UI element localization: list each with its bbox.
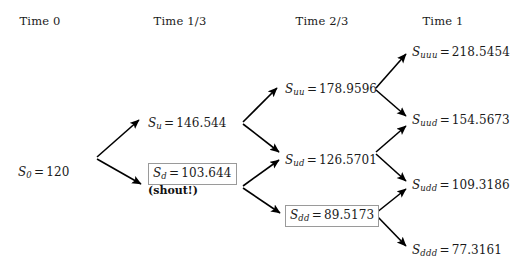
- time-header-3: Time 1: [422, 14, 463, 28]
- node-equals-Suuu: =: [438, 45, 452, 59]
- node-value-Sd: 103.644: [181, 166, 231, 180]
- node-equals-Suu: =: [305, 82, 319, 96]
- tree-edge-Sud-to-Suud: [376, 126, 406, 152]
- node-label-Su: Su=146.544: [148, 116, 227, 131]
- time-header-0: Time 0: [19, 14, 60, 28]
- tree-edge-Su-to-Suu: [243, 88, 277, 122]
- node-value-Sdd: 89.5173: [324, 208, 374, 222]
- node-value-Su: 146.544: [176, 116, 226, 130]
- node-box-Sdd: Sdd=89.5173: [285, 205, 379, 227]
- node-equals-S0: =: [32, 165, 46, 179]
- node-equals-Sud: =: [305, 153, 319, 167]
- node-equals-Sd: =: [167, 166, 181, 180]
- time-header-1: Time 1/3: [154, 14, 207, 28]
- node-value-Suu: 178.9596: [319, 82, 377, 96]
- node-value-Sud: 126.5701: [319, 153, 377, 167]
- tree-edge-S0-to-Sd: [97, 159, 141, 184]
- node-label-Sud: Sud=126.5701: [285, 153, 377, 168]
- shout-annotation-Sd: (shout!): [148, 184, 198, 197]
- node-subscript-Sudd: udd: [420, 183, 437, 193]
- node-label-Sudd: Sudd=109.3186: [412, 178, 510, 193]
- tree-edge-Su-to-Sud: [243, 124, 279, 152]
- node-subscript-Suuu: uuu: [420, 50, 437, 60]
- tree-edge-Sd-to-Sud: [243, 160, 279, 186]
- node-label-Sdd: Sdd=89.5173: [286, 206, 378, 226]
- node-box-Sd: Sd=103.644: [148, 163, 237, 185]
- tree-edge-Sud-to-Sudd: [376, 154, 406, 181]
- node-label-Suud: Suud=154.5673: [412, 113, 510, 128]
- node-equals-Sddd: =: [438, 243, 452, 257]
- time-header-2: Time 2/3: [296, 14, 349, 28]
- tree-edge-Sd-to-Sdd: [243, 188, 280, 213]
- node-label-Suuu: Suuu=218.5454: [412, 45, 510, 60]
- node-equals-Suud: =: [438, 113, 452, 127]
- node-subscript-Suu: uu: [293, 87, 305, 97]
- node-subscript-Sddd: ddd: [420, 248, 437, 258]
- tree-edge-S0-to-Su: [97, 120, 139, 157]
- node-equals-Su: =: [162, 116, 176, 130]
- binomial-tree-diagram: Time 0Time 1/3Time 2/3Time 1 S0=120Su=14…: [0, 0, 526, 278]
- node-label-Suu: Suu=178.9596: [285, 82, 377, 97]
- node-value-Suud: 154.5673: [452, 113, 510, 127]
- node-subscript-Sdd: dd: [298, 213, 309, 223]
- tree-edges: [0, 0, 526, 278]
- node-label-Sd: Sd=103.644: [149, 164, 236, 184]
- node-subscript-Sud: ud: [293, 158, 305, 168]
- node-value-Sudd: 109.3186: [452, 178, 510, 192]
- node-value-Suuu: 218.5454: [452, 45, 510, 59]
- node-subscript-Suud: uud: [420, 118, 437, 128]
- tree-edge-Suu-to-Suud: [376, 90, 406, 116]
- node-value-S0: 120: [46, 165, 69, 179]
- node-value-Sddd: 77.3161: [452, 243, 502, 257]
- node-equals-Sudd: =: [438, 178, 452, 192]
- tree-edge-Suu-to-Suuu: [376, 54, 406, 88]
- tree-edge-Sdd-to-Sudd: [376, 189, 406, 213]
- node-equals-Sdd: =: [310, 208, 324, 222]
- node-label-Sddd: Sddd=77.3161: [412, 243, 502, 258]
- tree-edge-Sdd-to-Sddd: [376, 215, 406, 246]
- node-label-S0: S0=120: [18, 165, 69, 180]
